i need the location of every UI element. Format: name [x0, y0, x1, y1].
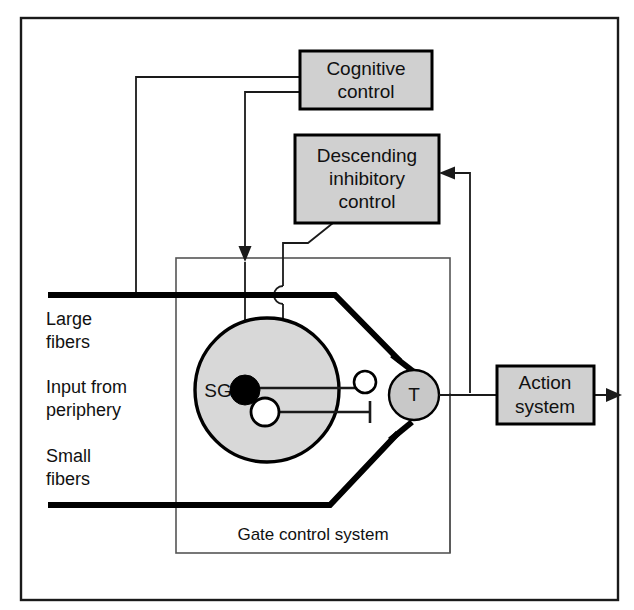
large-fibers-label-line1: Large	[46, 309, 92, 329]
arrowhead-feedback-to-descending	[439, 167, 455, 180]
action-system-label-line1: Action	[519, 372, 572, 393]
gate-control-system-label: Gate control system	[237, 525, 388, 544]
sg-open-node	[251, 398, 279, 426]
connector-cognitive-to-gate	[245, 92, 300, 250]
sg-open-terminal-upper	[354, 371, 376, 393]
diagram-canvas: SG T Cognitive control Descending inhibi…	[0, 0, 634, 610]
descending-control-label-line1: Descending	[317, 145, 417, 166]
descending-control-label-line2: inhibitory	[329, 168, 406, 189]
gate-control-diagram: SG T Cognitive control Descending inhibi…	[0, 0, 634, 610]
t-label: T	[408, 384, 420, 405]
input-periphery-label-line1: Input from	[46, 377, 127, 397]
small-fibers-label-line2: fibers	[46, 469, 90, 489]
sg-label: SG	[204, 380, 231, 401]
descending-control-label-line3: control	[338, 191, 395, 212]
small-fibers-label-line1: Small	[46, 446, 91, 466]
action-system-label-line2: system	[515, 396, 575, 417]
cognitive-control-label-line1: Cognitive	[326, 58, 405, 79]
small-fiber-terminal-bar	[390, 422, 412, 440]
connector-feedback-to-descending	[452, 173, 470, 393]
arrowhead-cognitive-to-gate	[239, 246, 252, 262]
connector-cognitive-to-left	[136, 77, 300, 297]
cognitive-control-label-line2: control	[337, 81, 394, 102]
large-fibers-label-line2: fibers	[46, 332, 90, 352]
input-periphery-label-line2: periphery	[46, 400, 121, 420]
arrowhead-action-output	[606, 388, 622, 402]
connector-descending-to-sg	[283, 223, 333, 286]
